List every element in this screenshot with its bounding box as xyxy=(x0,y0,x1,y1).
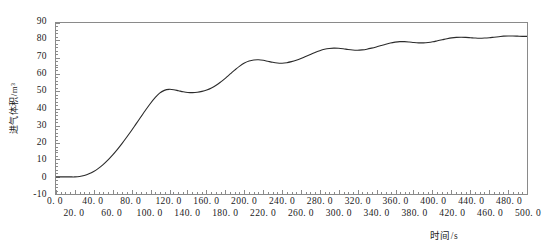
x-axis-tick-label: 160. 0 xyxy=(193,197,219,207)
x-axis-tick-label: 380. 0 xyxy=(401,209,427,219)
x-axis-tick-label: 360. 0 xyxy=(382,197,408,207)
x-axis-tick-label: 80. 0 xyxy=(120,197,141,207)
y-axis-tick-label: 60 xyxy=(37,69,47,79)
y-axis-tick-label: 50 xyxy=(37,86,47,96)
y-axis-tick-label: 80 xyxy=(37,35,47,45)
x-axis-tick-label: 100. 0 xyxy=(137,209,163,219)
x-axis-tick-label: 500. 0 xyxy=(515,209,541,219)
x-axis-tick-label: 20. 0 xyxy=(63,209,84,219)
x-axis-tick-label: 420. 0 xyxy=(439,209,465,219)
x-axis-tick-label: 200. 0 xyxy=(231,197,257,207)
x-axis-tick-label: 120. 0 xyxy=(155,197,181,207)
data-curve xyxy=(56,23,527,194)
x-axis-title: 时间/s xyxy=(0,228,558,242)
x-axis-tick-label: 240. 0 xyxy=(269,197,295,207)
x-axis-tick-label: 320. 0 xyxy=(345,197,371,207)
x-axis-tick-label: 400. 0 xyxy=(420,197,446,207)
series-line xyxy=(56,36,527,177)
x-axis-tick-label: 0. 0 xyxy=(47,197,63,207)
y-axis-tick-label: 70 xyxy=(37,52,47,62)
x-axis-tick-label: 180. 0 xyxy=(212,209,238,219)
y-axis-tick-label: 90 xyxy=(37,17,47,27)
y-axis-tick-label: 10 xyxy=(37,156,47,166)
x-axis-tick-label: 440. 0 xyxy=(458,197,484,207)
y-axis-tick-label: 0 xyxy=(42,173,47,183)
y-axis-tick-label: 20 xyxy=(37,138,47,148)
x-axis-tick-label: 260. 0 xyxy=(288,209,314,219)
x-axis-tick-label: 280. 0 xyxy=(307,197,333,207)
x-axis-tick-label: 140. 0 xyxy=(174,209,200,219)
y-axis-tick-label: -10 xyxy=(33,190,47,200)
x-axis-tick-label: 220. 0 xyxy=(250,209,276,219)
x-axis-tick-label: 340. 0 xyxy=(364,209,390,219)
y-axis-tick-labels: 9080706050403020100-10 xyxy=(0,22,52,195)
chart-figure: 进气体积/m³ 9080706050403020100-10 0. 020. 0… xyxy=(0,0,558,251)
y-axis-tick-label: 40 xyxy=(37,104,47,114)
x-axis-tick-label: 40. 0 xyxy=(82,197,103,207)
x-axis-tick-label: 60. 0 xyxy=(101,209,122,219)
plot-area xyxy=(55,22,528,195)
x-axis-tick-label: 480. 0 xyxy=(496,197,522,207)
x-axis-tick-labels: 0. 020. 040. 060. 080. 0100. 0120. 0140.… xyxy=(55,196,528,222)
y-axis-tick-label: 30 xyxy=(37,121,47,131)
x-axis-tick-label: 300. 0 xyxy=(326,209,352,219)
x-axis-tick-label: 460. 0 xyxy=(477,209,503,219)
